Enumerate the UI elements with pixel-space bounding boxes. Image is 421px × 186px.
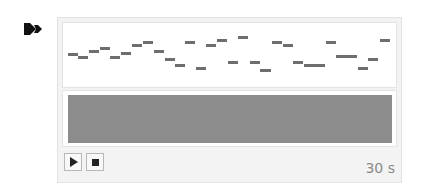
double-arrow-icon [24,22,46,36]
note [326,41,336,44]
note [121,52,131,55]
play-icon [70,157,78,167]
note [336,55,357,58]
note [238,36,248,39]
note [100,47,110,50]
note [89,50,99,53]
note [368,58,378,61]
note [304,64,325,67]
note [154,50,164,53]
note [110,56,120,59]
play-button[interactable] [64,153,82,171]
note [175,64,185,67]
note [206,44,216,47]
note [143,41,153,44]
waveform[interactable] [68,95,392,143]
note [132,44,142,47]
note [260,69,271,72]
note [228,61,238,64]
note [293,61,303,64]
note [283,44,293,47]
note [217,39,227,42]
duration-label: 30 s [365,160,395,176]
note [165,58,175,61]
stop-button[interactable] [86,153,104,171]
note [272,41,282,44]
note [78,56,88,59]
note [68,53,78,56]
note [358,67,368,70]
note [380,39,390,42]
stop-icon [92,159,99,166]
note [196,67,206,70]
note [250,61,260,64]
note [185,41,195,44]
